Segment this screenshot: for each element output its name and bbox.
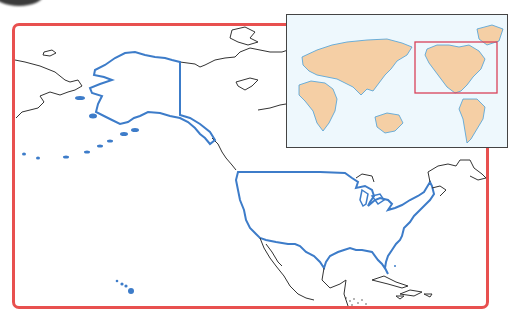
island-outline bbox=[43, 50, 56, 56]
arctic-island-2 bbox=[236, 78, 258, 90]
alaska-outline bbox=[90, 52, 215, 144]
central-america-dots bbox=[345, 297, 366, 305]
australia-landmass bbox=[375, 113, 403, 133]
world-locator-inset bbox=[286, 14, 508, 148]
russia-outline bbox=[15, 60, 82, 118]
north-america-landmass bbox=[425, 45, 485, 93]
caribbean-outline bbox=[372, 276, 432, 299]
africa-landmass bbox=[299, 81, 337, 131]
contiguous-us-outline bbox=[236, 172, 434, 274]
aleutian-islands bbox=[22, 96, 139, 160]
canada-north-outline bbox=[180, 48, 288, 67]
arctic-island-1 bbox=[230, 27, 258, 45]
world-map bbox=[287, 15, 508, 148]
bahamas-dot bbox=[394, 265, 396, 267]
canada-east-outline bbox=[356, 160, 486, 196]
hawaii-islands bbox=[116, 280, 134, 294]
mexico-outline bbox=[260, 238, 348, 306]
south-america-landmass bbox=[459, 99, 485, 143]
bc-coast-outline bbox=[212, 138, 236, 170]
arctic-island-3 bbox=[258, 104, 286, 110]
